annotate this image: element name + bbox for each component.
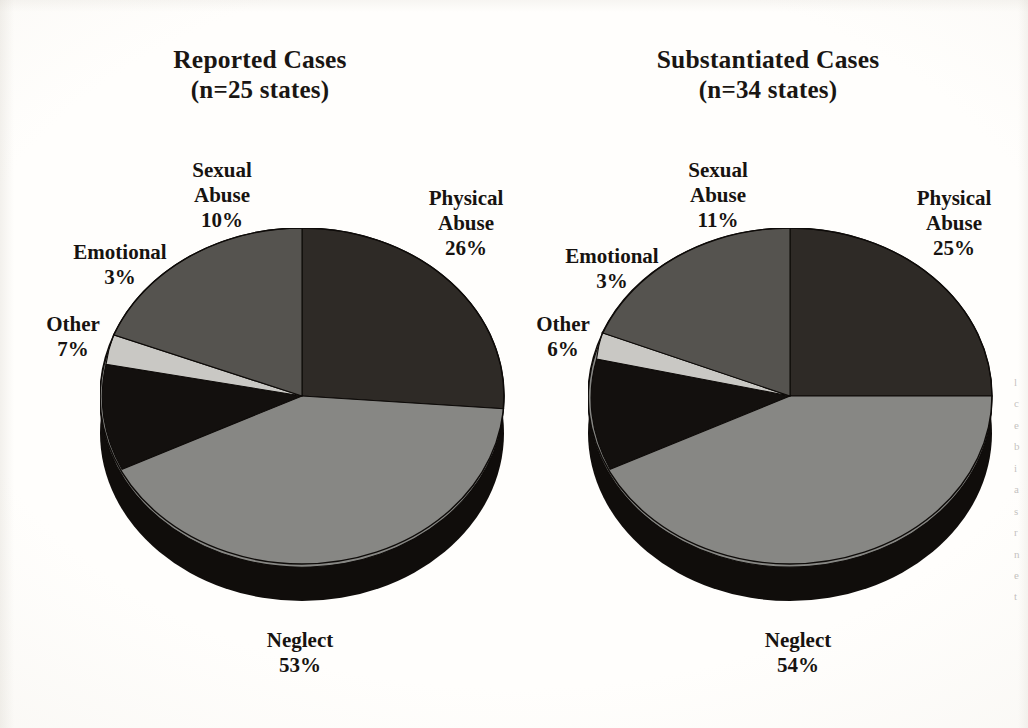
margin-text-fragment: e (1014, 415, 1028, 436)
margin-text-fragment: e (1014, 565, 1028, 586)
margin-text-fragment: r (1014, 522, 1028, 543)
label-sexual-abuse: Sexual Abuse 11% (648, 158, 788, 232)
label-physical-abuse-line2: Abuse (880, 211, 1028, 236)
label-sexual-abuse-percent: 11% (648, 208, 788, 233)
label-physical-abuse-line1: Physical (880, 186, 1028, 211)
label-emotional: Emotional 3% (528, 244, 696, 294)
margin-text-fragment: t (1014, 586, 1028, 607)
label-neglect-name: Neglect (698, 628, 898, 653)
margin-text-fragment: n (1014, 544, 1028, 565)
label-emotional: Emotional 3% (36, 240, 204, 290)
label-sexual-abuse-line2: Abuse (152, 183, 292, 208)
chart-right-title-main: Substantiated Cases (508, 44, 1028, 75)
label-physical-abuse-percent: 25% (880, 236, 1028, 261)
label-sexual-abuse: Sexual Abuse 10% (152, 158, 292, 232)
cropped-margin-text: lcebiasrnet (1014, 372, 1028, 658)
chart-right-title: Substantiated Cases (n=34 states) (508, 44, 1028, 106)
label-other-name: Other (508, 312, 618, 337)
margin-text-fragment: c (1014, 393, 1028, 414)
label-emotional-name: Emotional (528, 244, 696, 269)
label-sexual-abuse-line1: Sexual (648, 158, 788, 183)
label-emotional-percent: 3% (36, 265, 204, 290)
margin-text-fragment: s (1014, 501, 1028, 522)
label-emotional-percent: 3% (528, 269, 696, 294)
chart-left-title-main: Reported Cases (0, 44, 520, 75)
label-other: Other 7% (18, 312, 128, 362)
label-sexual-abuse-line2: Abuse (648, 183, 788, 208)
margin-text-fragment: b (1014, 436, 1028, 457)
label-sexual-abuse-line1: Sexual (152, 158, 292, 183)
label-other: Other 6% (508, 312, 618, 362)
label-other-percent: 6% (508, 337, 618, 362)
label-neglect-percent: 53% (200, 653, 400, 678)
label-physical-abuse: Physical Abuse 25% (880, 186, 1028, 260)
label-neglect-percent: 54% (698, 653, 898, 678)
label-neglect: Neglect 53% (200, 628, 400, 678)
chart-left-title-subtitle: (n=25 states) (0, 75, 520, 106)
chart-reported-cases: Reported Cases (n=25 states) (0, 0, 520, 728)
label-neglect: Neglect 54% (698, 628, 898, 678)
label-other-name: Other (18, 312, 128, 337)
label-neglect-name: Neglect (200, 628, 400, 653)
chart-left-title: Reported Cases (n=25 states) (0, 44, 520, 106)
label-sexual-abuse-percent: 10% (152, 208, 292, 233)
margin-text-fragment: a (1014, 479, 1028, 500)
chart-substantiated-cases: Substantiated Cases (n=34 states) (508, 0, 1028, 728)
chart-right-title-subtitle: (n=34 states) (508, 75, 1028, 106)
label-other-percent: 7% (18, 337, 128, 362)
label-emotional-name: Emotional (36, 240, 204, 265)
margin-text-fragment: i (1014, 458, 1028, 479)
margin-text-fragment: l (1014, 372, 1028, 393)
